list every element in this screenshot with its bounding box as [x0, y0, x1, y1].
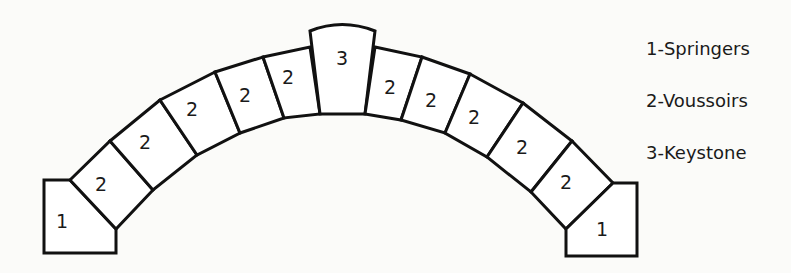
keystone-stone [310, 25, 375, 115]
voussoir-r1-number-label: 2 [384, 76, 396, 98]
springer-left-number-label: 1 [56, 210, 68, 232]
voussoir-l1-number-label: 2 [95, 173, 107, 195]
voussoir-r4-number-label: 2 [516, 136, 528, 158]
voussoir-l5-number-label: 2 [282, 66, 294, 88]
legend: 1-Springers 2-Voussoirs 3-Keystone [646, 36, 750, 192]
springer-right-number-label: 1 [596, 218, 608, 240]
voussoir-r2-number-label: 2 [425, 89, 437, 111]
legend-item-keystone: 3-Keystone [646, 140, 750, 166]
voussoir-r5-number-label: 2 [560, 171, 572, 193]
legend-item-voussoirs: 2-Voussoirs [646, 88, 750, 114]
voussoir-l3-number-label: 2 [186, 98, 198, 120]
voussoir-l4-number-label: 2 [239, 84, 251, 106]
voussoir-l2-number-label: 2 [139, 131, 151, 153]
legend-item-springers: 1-Springers [646, 36, 750, 62]
voussoir-r3-number-label: 2 [468, 106, 480, 128]
arch-diagram: 1222223222221 1-Springers 2-Voussoirs 3-… [0, 0, 791, 273]
keystone-number-label: 3 [336, 47, 348, 69]
